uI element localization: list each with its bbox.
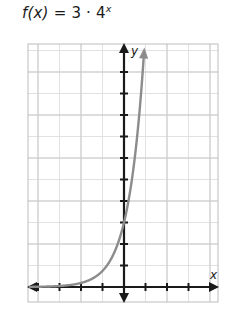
graph-svg: x y (0, 0, 239, 321)
function-curve (30, 54, 144, 287)
function-curve-group (30, 48, 148, 287)
coordinate-plane: x y (0, 0, 239, 321)
y-axis (119, 43, 129, 303)
figure-root: f(x) = 3 · 4x x y (0, 0, 239, 321)
x-axis-label: x (209, 268, 218, 282)
y-axis-label: y (130, 44, 139, 58)
curve-arrowhead (139, 48, 148, 59)
